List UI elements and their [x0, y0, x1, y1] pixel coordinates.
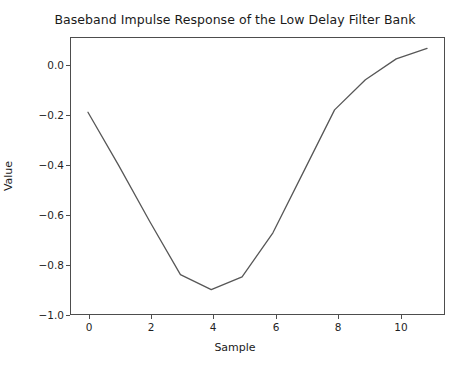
x-tick-label: 4 [210, 321, 217, 333]
x-tick-label: 6 [273, 321, 280, 333]
x-axis-label: Sample [0, 341, 470, 354]
chart-figure: Baseband Impulse Response of the Low Del… [0, 0, 470, 366]
x-tick-mark [213, 315, 214, 319]
chart-title: Baseband Impulse Response of the Low Del… [0, 12, 470, 27]
y-tick-label: −0.8 [39, 259, 65, 271]
x-tick-mark [89, 315, 90, 319]
x-tick-label: 2 [148, 321, 155, 333]
x-tick-mark [151, 315, 152, 319]
x-tick-mark [401, 315, 402, 319]
y-tick-mark [66, 315, 70, 316]
y-axis-tick-labels: 0.0 −0.2 −0.4 −0.6 −0.8 −1.0 [26, 0, 64, 366]
x-tick-label: 0 [86, 321, 93, 333]
y-tick-label: −0.4 [39, 159, 65, 171]
x-tick-label: 10 [394, 321, 407, 333]
x-tick-mark [338, 315, 339, 319]
data-line-series [71, 38, 444, 314]
impulse-response-line [88, 48, 427, 289]
x-tick-label: 8 [335, 321, 342, 333]
x-axis-tick-labels: 0 2 4 6 8 10 [0, 321, 470, 341]
y-axis-label: Value [2, 161, 15, 191]
y-tick-label: −1.0 [39, 309, 65, 321]
y-tick-label: 0.0 [47, 59, 64, 71]
plot-area [70, 37, 445, 315]
y-tick-label: −0.6 [39, 209, 65, 221]
x-tick-mark [276, 315, 277, 319]
y-tick-label: −0.2 [39, 109, 65, 121]
